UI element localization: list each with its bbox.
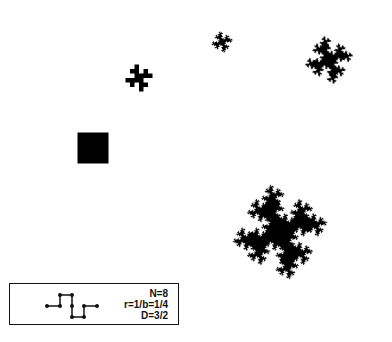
legend-parameters: N=8 r=1/b=1/4 D=3/2 — [124, 288, 168, 321]
stage-3-shape — [305, 36, 353, 84]
stage-1-shape — [126, 65, 153, 92]
legend-n: N=8 — [124, 288, 168, 299]
legend-d: D=3/2 — [124, 310, 168, 321]
stage-2-shape — [211, 31, 232, 52]
initiator-square-shape — [78, 133, 109, 164]
stage-4-shape — [233, 185, 328, 280]
legend-r: r=1/b=1/4 — [124, 299, 168, 310]
generator-legend-box: N=8 r=1/b=1/4 D=3/2 — [9, 283, 179, 325]
